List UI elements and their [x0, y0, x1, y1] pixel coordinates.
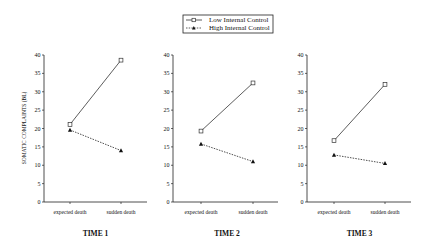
y-tick-label: 15: [35, 144, 41, 150]
y-axis-title: SOMATIC COMPLAINTS (BL): [21, 91, 28, 164]
y-tick-label: 30: [35, 89, 41, 95]
y-tick-label: 25: [164, 107, 170, 113]
filled-triangle-marker-icon: [251, 159, 255, 163]
y-tick-label: 10: [35, 162, 41, 168]
legend-label-low: Low Internal Control: [209, 16, 269, 24]
series-line-high-control: [201, 144, 253, 162]
y-tick-label: 30: [164, 89, 170, 95]
panel-1: 0510152025303540expected deathsudden dea…: [35, 52, 148, 238]
y-tick-label: 10: [164, 162, 170, 168]
panel-2: 0510152025303540expected deathsudden dea…: [164, 52, 279, 238]
filled-triangle-marker-icon: [332, 153, 336, 157]
open-square-marker-icon: [332, 139, 336, 143]
y-tick-label: 0: [167, 199, 170, 205]
panel-title: TIME 2: [214, 229, 240, 238]
x-category-label: sudden death: [239, 209, 268, 215]
filled-triangle-marker-icon: [199, 142, 203, 146]
filled-triangle-marker-icon: [119, 148, 123, 152]
series-line-low-control: [201, 83, 253, 131]
y-tick-label: 25: [298, 107, 304, 113]
y-tick-label: 35: [35, 70, 41, 76]
series-line-high-control: [70, 130, 121, 151]
y-tick-label: 5: [167, 181, 170, 187]
series-line-low-control: [70, 60, 121, 124]
x-category-label: expected death: [185, 209, 218, 215]
y-tick-label: 40: [298, 52, 304, 58]
y-tick-label: 15: [164, 144, 170, 150]
y-tick-label: 20: [298, 126, 304, 132]
open-square-marker-icon: [68, 123, 72, 127]
legend: Low Internal Control High Internal Contr…: [183, 15, 273, 33]
y-tick-label: 40: [35, 52, 41, 58]
open-square-marker-icon: [119, 58, 123, 62]
x-category-label: sudden death: [371, 209, 400, 215]
y-tick-label: 0: [38, 199, 41, 205]
x-category-label: expected death: [318, 209, 351, 215]
panels: 0510152025303540expected deathsudden dea…: [35, 52, 412, 238]
y-tick-label: 30: [298, 89, 304, 95]
open-square-marker-icon: [192, 18, 195, 21]
series-line-low-control: [334, 84, 385, 140]
open-square-marker-icon: [199, 129, 203, 133]
series-line-high-control: [334, 155, 385, 163]
y-tick-label: 35: [164, 70, 170, 76]
x-category-label: expected death: [54, 209, 87, 215]
y-tick-label: 35: [298, 70, 304, 76]
y-tick-label: 0: [301, 199, 304, 205]
x-category-label: sudden death: [107, 209, 136, 215]
panel-3: 0510152025303540expected deathsudden dea…: [298, 52, 412, 238]
y-tick-label: 5: [38, 181, 41, 187]
open-square-marker-icon: [383, 83, 387, 87]
y-tick-label: 10: [298, 162, 304, 168]
y-tick-label: 20: [164, 126, 170, 132]
open-square-marker-icon: [251, 81, 255, 85]
y-tick-label: 20: [35, 126, 41, 132]
filled-triangle-marker-icon: [383, 161, 387, 165]
filled-triangle-marker-icon: [68, 128, 72, 132]
panel-title: TIME 1: [83, 229, 109, 238]
y-tick-label: 40: [164, 52, 170, 58]
legend-label-high: High Internal Control: [209, 24, 270, 32]
panel-title: TIME 3: [347, 229, 373, 238]
y-tick-label: 25: [35, 107, 41, 113]
y-tick-label: 5: [301, 181, 304, 187]
y-tick-label: 15: [298, 144, 304, 150]
